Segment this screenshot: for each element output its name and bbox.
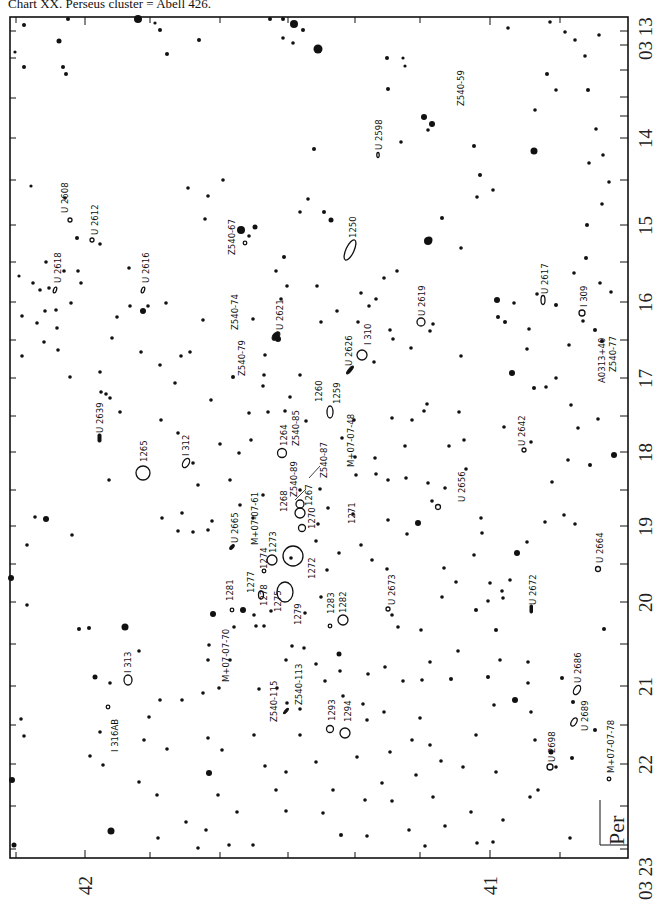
- galaxies: [53, 153, 611, 781]
- ra-label-21: 21: [635, 677, 656, 696]
- label-u2639: U 2639: [95, 402, 105, 433]
- label-u2621: U 2621: [275, 299, 285, 330]
- label-u2656: U 2656: [457, 471, 467, 502]
- label-1260: 1260: [314, 380, 324, 402]
- label-1279: 1279: [293, 603, 303, 625]
- label-1293: 1293: [327, 699, 337, 721]
- label-u2618: U 2618: [53, 252, 63, 283]
- label-1281: 1281: [225, 579, 235, 601]
- label-1277: 1277: [246, 571, 256, 593]
- label-u2626: U 2626: [344, 335, 354, 366]
- label-u2689: U 2689: [580, 700, 590, 731]
- label-z540-87: Z540-87: [319, 442, 329, 478]
- label-u2608: U 2608: [60, 182, 70, 213]
- label-u2686: U 2686: [573, 652, 583, 683]
- label-z540-113: Z540-113: [294, 664, 304, 705]
- galaxy-labels: U 2608 U 2612 U 2618 U 2616 Z540-67 Z540…: [53, 70, 618, 773]
- label-z540-59: Z540-59: [456, 70, 466, 106]
- label-1267: 1267: [304, 484, 314, 506]
- dec-axis-labels: 42 41: [75, 876, 501, 895]
- label-1278: 1278: [259, 584, 269, 606]
- label-z540-79: Z540-79: [237, 340, 247, 376]
- ra-label-14: 14: [635, 129, 656, 149]
- label-z540-85: Z540-85: [291, 410, 301, 446]
- label-1272: 1272: [307, 557, 317, 579]
- label-1264: 1264: [279, 424, 289, 446]
- label-z540-77: Z540-77: [608, 336, 618, 372]
- label-z540-74: Z540-74: [230, 294, 240, 330]
- dec-label-42: 42: [75, 876, 96, 895]
- label-u2698: U 2698: [547, 731, 557, 762]
- label-1273: 1273: [268, 531, 278, 553]
- label-1282: 1282: [338, 591, 348, 613]
- label-u2672: U 2672: [528, 574, 538, 605]
- label-m+07-07-48: M+07-07-48: [346, 414, 356, 467]
- label-z540-89: Z540-89: [289, 461, 299, 497]
- ra-label-17: 17: [635, 369, 656, 388]
- label-1265: 1265: [139, 440, 149, 462]
- dec-label-41: 41: [480, 876, 501, 895]
- label-u2619: U 2619: [417, 285, 427, 316]
- label-1270: 1270: [307, 507, 317, 529]
- label-u2642: U 2642: [517, 415, 527, 446]
- ra-label-16: 16: [635, 293, 656, 312]
- label-1271: 1271: [347, 502, 357, 524]
- label-1294: 1294: [343, 700, 353, 722]
- ra-label-18: 18: [635, 443, 656, 462]
- label-1259: 1259: [332, 382, 342, 404]
- ra-label-22: 22: [635, 755, 656, 774]
- label-1283: 1283: [326, 592, 336, 614]
- label-i310: I 310: [363, 324, 373, 345]
- label-i316ab: I 316AB: [110, 719, 120, 752]
- label-z540-115: Z540-115: [269, 681, 279, 722]
- label-1275: 1275: [273, 590, 283, 612]
- ra-axis-labels: 03 13 14 15 16 17 18 19 20 21 22 03 23: [635, 17, 656, 900]
- ra-label-15: 15: [635, 216, 656, 235]
- label-u2612: U 2612: [90, 204, 100, 235]
- star-chart: 03 13 14 15 16 17 18 19 20 21 22 03 23 4…: [0, 0, 661, 903]
- chart-frame: [10, 17, 628, 858]
- constellation-label: Per: [604, 815, 629, 845]
- label-i312: I 312: [181, 435, 191, 456]
- label-m+07-07-61: M+07-07-61: [250, 492, 260, 545]
- label-u2617: U 2617: [540, 263, 550, 294]
- label-u2664: U 2664: [595, 532, 605, 563]
- label-a0313+40: A0313+40: [597, 338, 607, 383]
- label-i309: I 309: [579, 286, 589, 307]
- ra-label-13: 03 13: [635, 17, 656, 60]
- label-m+07-07-78: M+07-07-78: [606, 720, 616, 773]
- label-u2598: U 2598: [374, 119, 384, 150]
- label-i313: I 313: [123, 652, 133, 673]
- label-1268: 1268: [279, 490, 289, 512]
- ra-label-23: 03 23: [635, 857, 656, 900]
- label-u2665: U 2665: [230, 512, 240, 543]
- ra-label-19: 19: [635, 517, 656, 536]
- label-1274: 1274: [259, 547, 269, 569]
- label-z540-67: Z540-67: [227, 219, 237, 255]
- ra-label-20: 20: [635, 593, 656, 612]
- label-m+07-07-70: M+07-07-70: [221, 629, 231, 682]
- label-1250: 1250: [348, 216, 358, 238]
- label-u2616: U 2616: [141, 252, 151, 283]
- label-u2673: U 2673: [387, 574, 397, 605]
